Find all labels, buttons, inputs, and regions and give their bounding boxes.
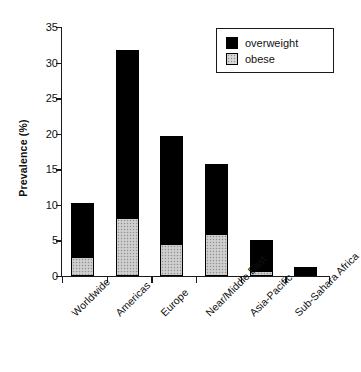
bar-segment-obese <box>72 257 93 275</box>
legend-entry-overweight: overweight <box>226 37 325 49</box>
black-square-swatch <box>226 37 238 49</box>
y-tick-label: 30 <box>46 57 58 69</box>
legend-entry-obese: obese <box>226 53 325 65</box>
y-axis-title: Prevalence (%) <box>17 88 29 228</box>
y-tick-label: 0 <box>52 270 58 282</box>
bar-segment-obese <box>117 218 138 275</box>
x-tick-mark <box>196 277 197 283</box>
x-label-europe: Europe <box>158 286 190 318</box>
bar-group <box>71 27 94 276</box>
bar-total <box>294 267 317 276</box>
x-label-americas: Americas <box>113 279 152 318</box>
bar-group <box>160 27 183 276</box>
x-label-asia-pacific: Asia-Pacific <box>247 271 294 318</box>
bar-segment-obese <box>161 244 182 275</box>
x-tick-mark <box>151 277 152 283</box>
y-tick-label: 5 <box>52 234 58 246</box>
legend-label-obese: obese <box>245 53 275 65</box>
y-tick-label: 35 <box>46 21 58 33</box>
y-tick-label: 25 <box>46 92 58 104</box>
bar-total <box>205 164 228 276</box>
bar-segment-obese <box>206 234 227 275</box>
y-tick-label: 20 <box>46 128 58 140</box>
x-tick-mark <box>62 277 63 283</box>
y-tick-label: 10 <box>46 199 58 211</box>
bar-total <box>160 136 183 276</box>
y-tick-label: 15 <box>46 163 58 175</box>
bar-group <box>116 27 139 276</box>
chart-legend: overweight obese <box>216 28 334 73</box>
bar-total <box>116 50 139 276</box>
x-label-worldwide: Worldwide <box>69 275 112 318</box>
gray-stipple-square-swatch <box>226 53 238 65</box>
bar-total <box>71 203 94 276</box>
legend-label-overweight: overweight <box>245 37 298 49</box>
